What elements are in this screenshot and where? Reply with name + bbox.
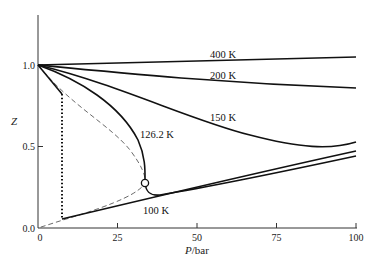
label-126k: 126.2 K <box>140 129 174 140</box>
curve-150k <box>38 65 356 147</box>
label-150k: 150 K <box>210 112 236 123</box>
y-tick-label: 1.0 <box>23 60 36 71</box>
critical-point-marker <box>141 179 148 186</box>
curve-200k <box>38 65 356 88</box>
label-400k: 400 K <box>210 49 236 60</box>
curve-126k <box>38 65 356 195</box>
y-tick-label: 0.5 <box>23 141 36 152</box>
label-100k: 100 K <box>143 205 169 216</box>
x-axis-label: P/bar <box>184 244 209 256</box>
x-axis-label-unit: /bar <box>192 244 209 256</box>
label-200k: 200 K <box>210 70 236 81</box>
x-tick-label: 50 <box>192 232 202 243</box>
compressibility-chart: 1.0 0.5 0.0 0 25 50 75 100 Z P/bar 400 K… <box>0 0 373 261</box>
y-tick-label: 0.0 <box>23 223 36 234</box>
x-tick-label: 100 <box>349 232 364 243</box>
y-axis-label: Z <box>11 115 18 127</box>
curve-400k <box>38 57 356 65</box>
x-tick-label: 0 <box>38 232 43 243</box>
x-tick-label: 75 <box>272 232 282 243</box>
x-tick-label: 25 <box>113 232 123 243</box>
curve-100k-liquid <box>62 151 356 219</box>
